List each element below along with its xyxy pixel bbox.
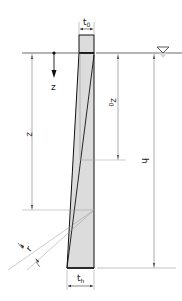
z-axis-label: z bbox=[51, 82, 56, 92]
h-label: h bbox=[140, 158, 150, 164]
z-label: z bbox=[25, 132, 35, 137]
z-axis-arrow-icon bbox=[52, 70, 57, 78]
z0-label: z0 bbox=[108, 98, 119, 107]
th-label: th bbox=[77, 273, 85, 284]
wall-top bbox=[79, 35, 94, 53]
t0-label: t0 bbox=[83, 17, 91, 28]
r-label: r bbox=[24, 244, 34, 253]
wall-diagram: t0 z z z0 h r th bbox=[0, 0, 182, 301]
water-surface-triangle-icon bbox=[157, 47, 169, 58]
